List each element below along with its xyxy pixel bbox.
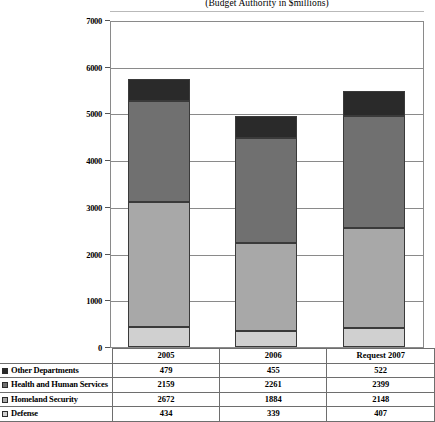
bar-segment	[128, 327, 190, 347]
plot-area	[110, 21, 424, 348]
table-row: Other Departments479455522	[0, 363, 435, 378]
legend-label-text: Health and Human Services	[11, 379, 108, 389]
data-table: 20052006Request 2007Other Departments479…	[0, 348, 435, 422]
stacked-bar	[343, 91, 405, 347]
y-axis-tick-label: 7000	[46, 16, 102, 26]
table-cell-value: 2159	[112, 378, 219, 393]
y-axis-tick-label: 3000	[46, 203, 102, 213]
y-axis-tick-label: 2000	[46, 250, 102, 260]
bar-segment	[343, 116, 405, 228]
table-column-header: Request 2007	[327, 349, 435, 364]
bar-segment	[128, 79, 190, 101]
gridline	[111, 68, 423, 69]
table-header-row: 20052006Request 2007	[0, 349, 435, 364]
legend-row-label: Health and Human Services	[0, 378, 112, 393]
table-cell-value: 2672	[112, 392, 219, 407]
legend-row-label: Homeland Security	[0, 392, 112, 407]
legend-swatch-icon	[2, 382, 8, 388]
table-column-header: 2005	[112, 349, 219, 364]
table-row: Defense434339407	[0, 407, 435, 422]
bar-segment	[235, 138, 297, 244]
bar-segment	[343, 91, 405, 115]
legend-label-text: Other Departments	[11, 365, 79, 375]
table-cell-value: 407	[327, 407, 435, 422]
table-column-header: 2006	[220, 349, 327, 364]
table-cell-value: 2399	[327, 378, 435, 393]
table-corner-cell	[0, 349, 112, 364]
legend-swatch-icon	[2, 411, 8, 417]
y-axis-tick-label: 6000	[46, 63, 102, 73]
bar-segment	[128, 101, 190, 202]
bar-segment	[343, 228, 405, 328]
bar-segment	[235, 331, 297, 347]
legend-row-label: Defense	[0, 407, 112, 422]
header-divider	[110, 11, 424, 12]
table-cell-value: 1884	[220, 392, 327, 407]
bar-segment	[235, 243, 297, 331]
stacked-bar	[128, 79, 190, 347]
bar-segment	[235, 116, 297, 137]
bar-segment	[128, 202, 190, 327]
legend-swatch-icon	[2, 368, 8, 374]
table-cell-value: 455	[220, 363, 327, 378]
table-cell-value: 479	[112, 363, 219, 378]
table-row: Health and Human Services215922612399	[0, 378, 435, 393]
legend-label-text: Homeland Security	[11, 394, 78, 404]
bar-segment	[343, 328, 405, 347]
legend-label-text: Defense	[11, 408, 38, 418]
y-axis-tick-label: 4000	[46, 156, 102, 166]
table-cell-value: 434	[112, 407, 219, 422]
stacked-bar	[235, 116, 297, 347]
legend-row-label: Other Departments	[0, 363, 112, 378]
table-row: Homeland Security267218842148	[0, 392, 435, 407]
table-cell-value: 2148	[327, 392, 435, 407]
legend-swatch-icon	[2, 397, 8, 403]
y-axis-tick-label: 5000	[46, 109, 102, 119]
y-axis-tick-label: 1000	[46, 296, 102, 306]
chart-subtitle: (Budget Authority in $millions)	[110, 0, 424, 8]
table-cell-value: 2261	[220, 378, 327, 393]
table-cell-value: 339	[220, 407, 327, 422]
table-cell-value: 522	[327, 363, 435, 378]
